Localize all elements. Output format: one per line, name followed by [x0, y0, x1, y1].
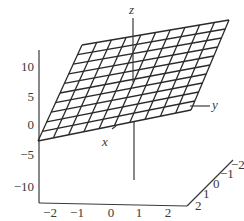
mesh-line: [60, 65, 210, 93]
mesh-line: [38, 110, 191, 141]
mesh-line: [42, 101, 194, 131]
y-ticks: 2 1 0 −1 −2: [195, 157, 244, 213]
y-tick-label: 0: [213, 176, 220, 191]
mesh-line: [56, 74, 207, 103]
x-tick-label: 0: [108, 205, 115, 220]
x-tick-label: −2: [43, 205, 57, 220]
x-tick-label: −1: [70, 205, 84, 220]
x-tick-label: 2: [165, 205, 172, 220]
y-tick-label: 1: [203, 186, 210, 201]
z-ticks: 10 5 0 −5 −10: [14, 59, 34, 194]
z-tick-label: −5: [20, 147, 34, 162]
mesh-line: [51, 83, 202, 112]
mesh-line: [64, 56, 213, 83]
z-tick-label: 5: [28, 89, 35, 104]
box-axes: [39, 50, 233, 206]
y-tick-label: 2: [195, 198, 202, 213]
z-tick-label: 10: [21, 59, 34, 74]
mesh-line: [47, 92, 199, 122]
x-ticks: −2 −1 0 1 2: [43, 205, 171, 220]
z-tick-label: −10: [14, 179, 34, 194]
x-axis-label: x: [101, 134, 108, 149]
y-tick-label: −2: [231, 157, 244, 172]
z-tick-label: 0: [28, 117, 35, 132]
y-axis-label: y: [210, 97, 218, 112]
x-tick-label: 1: [136, 205, 143, 220]
z-axis-label: z: [128, 2, 134, 17]
surface-plot: 10 5 0 −5 −10 −2 −1 0 1 2 2 1 0 −1 −2 z …: [0, 0, 244, 221]
